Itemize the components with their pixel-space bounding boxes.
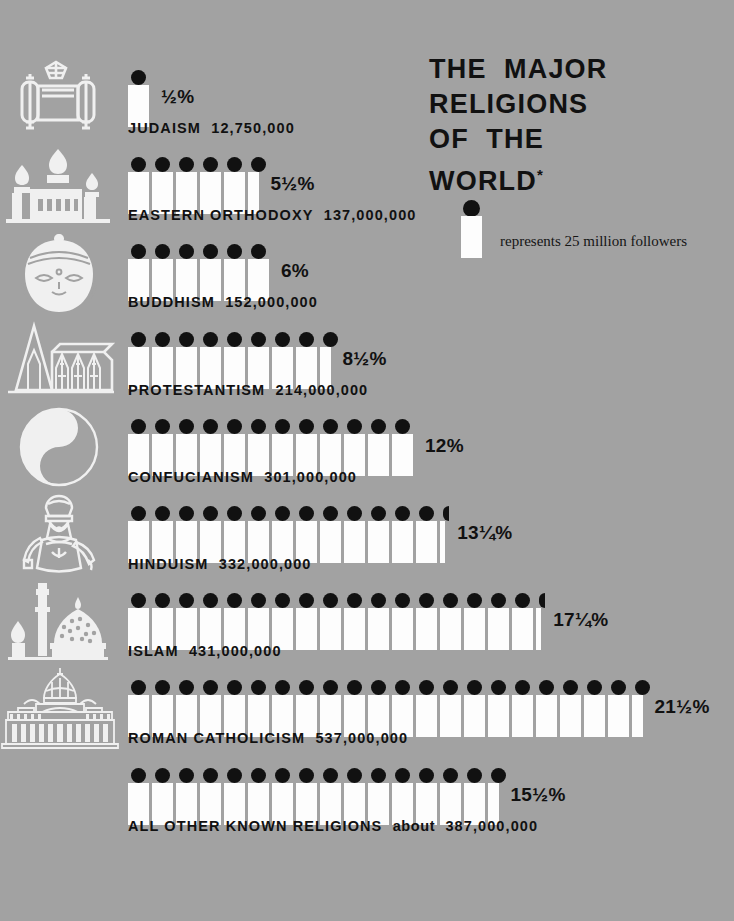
unit-dot: [347, 506, 362, 521]
unit-dot: [275, 506, 290, 521]
religion-row: 17¼%ISLAM 431,000,000: [0, 581, 734, 668]
religion-name: PROTESTANTISM: [128, 382, 265, 398]
unit-dot: [443, 593, 458, 608]
unit-dot: [227, 506, 242, 521]
unit-cell: [416, 521, 437, 563]
religion-name: EASTERN ORTHODOXY: [128, 207, 313, 223]
follower-count: 332,000,000: [219, 556, 312, 572]
unit-dot: [251, 244, 266, 259]
unit-dot-row: [128, 768, 499, 784]
unit-cell: [536, 695, 557, 737]
unit-dot-row: [128, 244, 269, 260]
unit-cell: [464, 695, 485, 737]
religion-label: JUDAISM 12,750,000: [128, 120, 295, 136]
unit-dot: [131, 768, 146, 783]
unit-dot: [203, 506, 218, 521]
unit-cell: [440, 521, 445, 563]
unit-dot: [443, 680, 458, 695]
religion-name: HINDUISM: [128, 556, 209, 572]
follower-count: 214,000,000: [276, 382, 369, 398]
percent-label: 5½%: [271, 173, 315, 195]
unit-dot: [203, 157, 218, 172]
percent-label: 21½%: [655, 696, 710, 718]
unit-dot: [251, 680, 266, 695]
percent-label: 17¼%: [553, 609, 608, 631]
unit-dot: [347, 593, 362, 608]
unit-dot: [491, 768, 506, 783]
religion-row: 21½%ROMAN CATHOLICISM 537,000,000: [0, 668, 734, 755]
unit-cell: [320, 521, 341, 563]
religion-row: 13¼%HINDUISM 332,000,000: [0, 494, 734, 581]
unit-dot: [419, 506, 434, 521]
unit-dot: [371, 419, 386, 434]
religion-row: 6%BUDDHISM 152,000,000: [0, 232, 734, 319]
unit-cell: [512, 695, 533, 737]
unit-cell: [440, 608, 461, 650]
unit-dot: [443, 506, 449, 521]
religion-label: ALL OTHER KNOWN RELIGIONS about 387,000,…: [128, 818, 538, 834]
unit-dot: [179, 157, 194, 172]
unit-dot: [203, 244, 218, 259]
unit-dot: [131, 506, 146, 521]
buddha-head-icon: [0, 232, 120, 312]
unit-cell: [488, 608, 509, 650]
unit-cell: [464, 608, 485, 650]
unit-dot: [155, 157, 170, 172]
unit-dot: [299, 593, 314, 608]
unit-cell: [368, 521, 389, 563]
unit-cell: [416, 695, 437, 737]
religion-name: CONFUCIANISM: [128, 469, 254, 485]
unit-cell: [608, 695, 629, 737]
unit-dot: [155, 506, 170, 521]
unit-dot: [419, 680, 434, 695]
unit-dot: [587, 680, 602, 695]
unit-dot: [323, 680, 338, 695]
unit-cell: [368, 608, 389, 650]
unit-dot: [155, 419, 170, 434]
unit-dot: [179, 244, 194, 259]
religion-row: 15½%ALL OTHER KNOWN RELIGIONS about 387,…: [0, 756, 734, 843]
unit-dot: [155, 593, 170, 608]
unit-dot: [251, 157, 266, 172]
unit-dot: [203, 419, 218, 434]
yin-yang-icon: [0, 407, 120, 487]
unit-dot: [251, 419, 266, 434]
religion-name: ISLAM: [128, 643, 179, 659]
unit-dot-row: [128, 506, 445, 522]
unit-dot: [131, 593, 146, 608]
unit-dot: [323, 506, 338, 521]
unit-dot: [179, 506, 194, 521]
unit-dot: [179, 768, 194, 783]
unit-dot: [467, 768, 482, 783]
unit-dot: [395, 680, 410, 695]
religion-label: PROTESTANTISM 214,000,000: [128, 382, 368, 398]
unit-dot: [251, 768, 266, 783]
percent-label: ½%: [161, 86, 194, 108]
mosque-icon: [0, 581, 120, 661]
unit-dot: [131, 70, 146, 85]
unit-cell: [344, 608, 365, 650]
religion-label: CONFUCIANISM 301,000,000: [128, 469, 357, 485]
follower-count: 537,000,000: [315, 730, 408, 746]
unit-dot: [227, 768, 242, 783]
unit-dot: [275, 768, 290, 783]
unit-dot: [347, 419, 362, 434]
percent-label: 15½%: [511, 784, 566, 806]
unit-dot: [227, 244, 242, 259]
religion-label: EASTERN ORTHODOXY 137,000,000: [128, 207, 416, 223]
religion-label: ISLAM 431,000,000: [128, 643, 282, 659]
unit-cell: [320, 608, 341, 650]
unit-dot: [299, 506, 314, 521]
unit-cell: [632, 695, 643, 737]
religion-name: BUDDHISM: [128, 294, 215, 310]
unit-dot: [275, 680, 290, 695]
unit-dot: [371, 768, 386, 783]
unit-dot: [323, 419, 338, 434]
unit-cell: [512, 608, 533, 650]
unit-dot: [203, 593, 218, 608]
unit-dot-row: [128, 332, 331, 348]
unit-dot-row: [128, 680, 643, 696]
unit-cell: [392, 434, 413, 476]
religion-name: ROMAN CATHOLICISM: [128, 730, 305, 746]
unit-cell: [584, 695, 605, 737]
